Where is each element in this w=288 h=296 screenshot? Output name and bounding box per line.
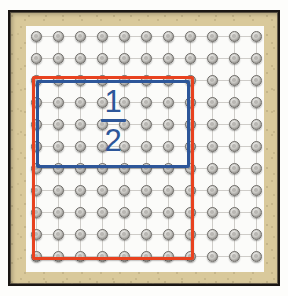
peg[interactable]	[207, 31, 218, 42]
peg-hole	[254, 100, 257, 103]
peg-hole	[34, 34, 37, 37]
peg-hole	[122, 34, 125, 37]
peg[interactable]	[251, 119, 262, 130]
peg[interactable]	[141, 53, 152, 64]
peg-hole	[210, 188, 213, 191]
peg-hole	[232, 210, 235, 213]
peg-hole	[166, 34, 169, 37]
peg-hole	[56, 34, 59, 37]
peg-hole	[210, 100, 213, 103]
peg-hole	[210, 144, 213, 147]
peg[interactable]	[75, 53, 86, 64]
peg[interactable]	[229, 163, 240, 174]
peg[interactable]	[207, 185, 218, 196]
peg[interactable]	[207, 97, 218, 108]
peg[interactable]	[141, 31, 152, 42]
peg[interactable]	[229, 53, 240, 64]
peg[interactable]	[207, 251, 218, 262]
peg-hole	[188, 56, 191, 59]
peg[interactable]	[31, 31, 42, 42]
peg-hole	[232, 144, 235, 147]
peg[interactable]	[163, 31, 174, 42]
peg-hole	[232, 232, 235, 235]
peg-hole	[210, 166, 213, 169]
peg-hole	[254, 188, 257, 191]
picture-frame: 1 2	[8, 10, 280, 286]
peg-hole	[232, 34, 235, 37]
peg[interactable]	[229, 251, 240, 262]
peg-hole	[144, 34, 147, 37]
peg-hole	[56, 56, 59, 59]
peg[interactable]	[251, 251, 262, 262]
peg-hole	[254, 34, 257, 37]
peg[interactable]	[31, 53, 42, 64]
peg-hole	[210, 78, 213, 81]
peg-hole	[254, 232, 257, 235]
peg-hole	[254, 122, 257, 125]
peg-hole	[254, 144, 257, 147]
peg[interactable]	[207, 119, 218, 130]
peg[interactable]	[251, 185, 262, 196]
peg-hole	[254, 78, 257, 81]
peg[interactable]	[207, 75, 218, 86]
peg-hole	[232, 254, 235, 257]
peg[interactable]	[207, 207, 218, 218]
peg-hole	[122, 56, 125, 59]
peg-hole	[232, 166, 235, 169]
peg[interactable]	[163, 53, 174, 64]
peg[interactable]	[119, 53, 130, 64]
peg[interactable]	[229, 75, 240, 86]
peg-hole	[210, 34, 213, 37]
peg[interactable]	[251, 141, 262, 152]
peg-hole	[232, 188, 235, 191]
peg[interactable]	[229, 119, 240, 130]
peg[interactable]	[251, 31, 262, 42]
peg-hole	[232, 100, 235, 103]
fraction-denominator: 2	[83, 125, 143, 156]
peg[interactable]	[229, 185, 240, 196]
peg[interactable]	[185, 31, 196, 42]
peg[interactable]	[251, 229, 262, 240]
peg-hole	[166, 56, 169, 59]
fraction-label: 1 2	[83, 86, 143, 156]
peg[interactable]	[97, 31, 108, 42]
peg[interactable]	[207, 163, 218, 174]
geoboard-figure: 1 2	[0, 0, 288, 296]
peg[interactable]	[185, 53, 196, 64]
peg-hole	[210, 254, 213, 257]
peg-hole	[254, 56, 257, 59]
peg-hole	[210, 56, 213, 59]
peg[interactable]	[251, 97, 262, 108]
peg[interactable]	[251, 207, 262, 218]
peg[interactable]	[207, 141, 218, 152]
peg-hole	[144, 56, 147, 59]
geoboard-surface: 1 2	[26, 26, 264, 272]
peg-hole	[34, 56, 37, 59]
peg[interactable]	[229, 141, 240, 152]
peg[interactable]	[97, 53, 108, 64]
peg-hole	[188, 34, 191, 37]
peg[interactable]	[251, 53, 262, 64]
peg-hole	[78, 56, 81, 59]
peg[interactable]	[229, 229, 240, 240]
peg[interactable]	[53, 31, 64, 42]
peg-hole	[100, 34, 103, 37]
peg[interactable]	[119, 31, 130, 42]
peg-hole	[254, 254, 257, 257]
peg-hole	[254, 166, 257, 169]
peg-hole	[254, 210, 257, 213]
peg[interactable]	[229, 207, 240, 218]
peg[interactable]	[251, 75, 262, 86]
fraction-numerator: 1	[83, 86, 143, 117]
peg[interactable]	[207, 53, 218, 64]
peg[interactable]	[75, 31, 86, 42]
peg[interactable]	[207, 229, 218, 240]
peg[interactable]	[229, 97, 240, 108]
peg-hole	[210, 232, 213, 235]
peg-hole	[232, 122, 235, 125]
peg[interactable]	[53, 53, 64, 64]
peg[interactable]	[251, 163, 262, 174]
peg[interactable]	[229, 31, 240, 42]
peg-hole	[78, 34, 81, 37]
peg-hole	[210, 122, 213, 125]
